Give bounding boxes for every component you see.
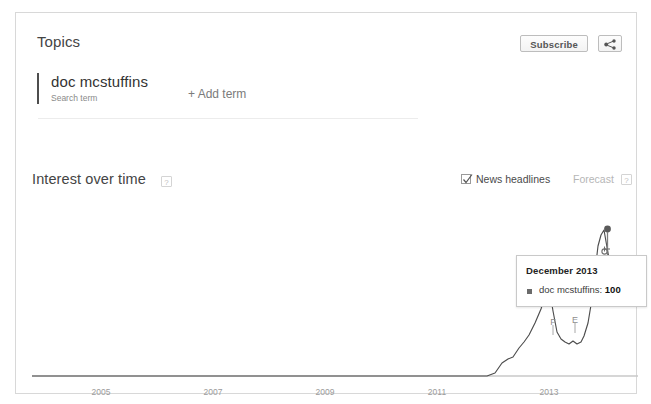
news-headlines-toggle[interactable]: News headlines [461,173,550,185]
search-term-label: doc mcstuffins [51,73,182,91]
xtick-2013: 2013 [540,387,559,397]
checkbox-icon[interactable] [461,174,471,184]
page-title: Topics [37,33,80,50]
help-icon[interactable]: ? [161,176,172,187]
hover-pin-icon [599,225,617,259]
chart-tooltip: December 2013 doc mcstuffins: 100 [516,255,647,307]
add-term-button[interactable]: + Add term [188,87,246,101]
xtick-2005: 2005 [92,387,111,397]
tooltip-series-value: 100 [605,284,621,295]
search-term-chip[interactable]: doc mcstuffins Search term [37,73,182,104]
interest-over-time-title: Interest over time [32,171,146,187]
xtick-2009: 2009 [316,387,335,397]
xtick-2007: 2007 [204,387,223,397]
tooltip-series-row: doc mcstuffins: 100 [539,284,621,295]
xtick-2011: 2011 [428,387,446,397]
tooltip-series-label: doc mcstuffins: [539,284,602,295]
forecast-label[interactable]: Forecast [573,173,614,185]
subscribe-button[interactable]: Subscribe [520,35,588,52]
search-term-type: Search term [51,92,182,104]
news-marker-f: F [550,317,556,327]
forecast-help-icon[interactable]: ? [621,174,632,185]
news-marker-e: E [572,315,578,325]
tooltip-date: December 2013 [526,265,598,276]
tooltip-series-swatch [527,289,532,294]
trends-card: Topics Subscribe doc mcstuffins Search t… [15,12,637,394]
terms-divider [38,118,418,119]
share-button[interactable] [598,35,622,52]
news-headlines-label: News headlines [476,173,550,185]
